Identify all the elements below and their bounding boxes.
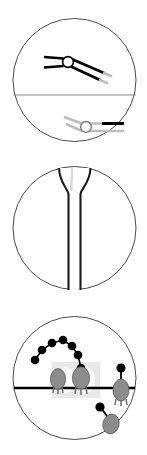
receptor-mid-leg-3 (86, 387, 87, 394)
receptor-left-leg-1 (53, 387, 54, 393)
bead-chain-node-4 (59, 336, 68, 345)
receptor-left-body (50, 369, 65, 390)
funnel-highlight (71, 169, 72, 190)
panel-funnel-tube (0, 150, 147, 305)
antibody-black-prong-upper (44, 57, 64, 59)
bead-chain-node-2 (38, 346, 47, 355)
receptor-left-leg-3 (62, 387, 63, 393)
bead-chain-node-3 (48, 339, 57, 348)
bead-chain-node-1 (31, 356, 40, 365)
receptor-right-leg-1 (115, 399, 116, 405)
receptor-mid (72, 367, 89, 395)
panel-3-canvas (0, 300, 147, 455)
figure-stage (0, 0, 147, 455)
bead-chain-node-6 (74, 351, 83, 360)
receptor-right-leg-3 (126, 399, 127, 405)
receptor-right-body (113, 379, 129, 401)
panel-2-canvas (0, 150, 147, 305)
antibody-black-prong-lower (44, 66, 64, 68)
antibody-gray-hinge-bead (81, 122, 92, 133)
panel-membrane-receptors (0, 300, 147, 455)
receptor-mid-body (72, 367, 89, 389)
receptor-bottom-stalk-bead (95, 402, 104, 411)
antibody-black-hinge-bead (63, 57, 74, 68)
receptor-right (113, 379, 129, 406)
panel-1-canvas (0, 0, 147, 152)
receptor-mid-leg-1 (75, 387, 76, 394)
bead-chain-node-5 (68, 342, 77, 351)
receptor-right-stalk-bead (116, 363, 125, 372)
panel-antibody-binding (0, 0, 147, 152)
